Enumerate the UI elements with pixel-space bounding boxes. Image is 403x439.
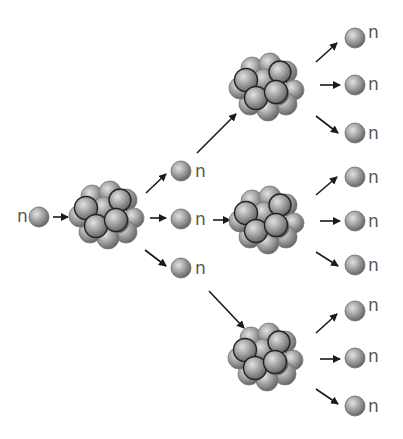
nucleus-group-2b: n n n — [229, 167, 379, 275]
neutron-icon — [345, 28, 365, 48]
nucleus-icon — [69, 181, 144, 249]
arrow-icon — [316, 314, 337, 333]
arrow-icon — [316, 116, 338, 133]
neutron-icon — [345, 211, 365, 231]
arrow-icon — [316, 252, 338, 266]
neutron-label: n — [368, 255, 379, 275]
nucleus-icon — [229, 53, 304, 121]
neutron-icon — [345, 167, 365, 187]
arrow-icon — [145, 250, 166, 266]
nucleus-icon — [228, 323, 303, 391]
neutron-label: n — [368, 295, 379, 315]
neutron-icon — [345, 396, 365, 416]
neutron-icon — [345, 348, 365, 368]
neutron-icon — [171, 161, 191, 181]
arrow-icon — [316, 43, 337, 62]
neutron-icon — [171, 258, 191, 278]
incoming-neutron: n — [17, 206, 49, 227]
neutron-label: n — [368, 346, 379, 366]
fission-chain-diagram: n n n n n n n n n n — [0, 0, 403, 439]
neutron-label: n — [368, 22, 379, 42]
neutron-icon — [29, 207, 49, 227]
neutron-icon — [345, 123, 365, 143]
neutron-icon — [345, 75, 365, 95]
neutron-label: n — [368, 123, 379, 143]
arrow-icon — [146, 174, 166, 193]
arrow-icon — [209, 291, 244, 328]
neutron-label: n — [195, 209, 206, 229]
neutron-icon — [171, 209, 191, 229]
neutron-label: n — [368, 74, 379, 94]
neutron-label: n — [17, 206, 28, 226]
nucleus-icon — [229, 186, 304, 254]
neutron-icon — [345, 301, 365, 321]
neutron-label: n — [368, 396, 379, 416]
neutron-label: n — [368, 167, 379, 187]
arrow-icon — [316, 389, 338, 404]
neutron-label: n — [368, 211, 379, 231]
nucleus-group-2c: n n n — [228, 295, 379, 416]
nucleus-group-2a: n n n — [229, 22, 379, 143]
arrow-icon — [197, 114, 236, 153]
arrow-icon — [316, 177, 337, 195]
neutron-label: n — [195, 258, 206, 278]
neutron-label: n — [195, 161, 206, 181]
neutron-icon — [345, 255, 365, 275]
